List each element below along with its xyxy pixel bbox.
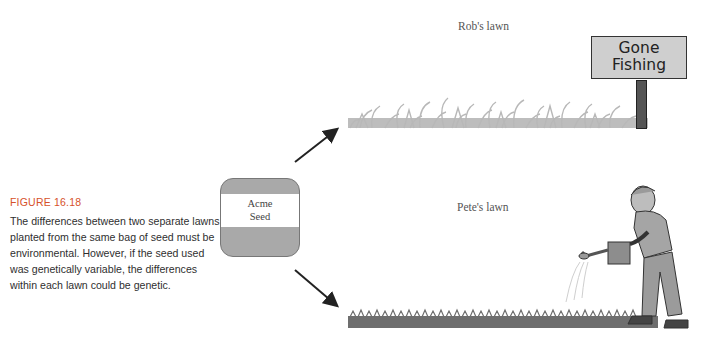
robs-lawn-grass-icon [348, 98, 648, 128]
sign-post [636, 80, 647, 129]
arrow-to-petes-lawn-icon [295, 270, 336, 305]
man-watering-icon [566, 186, 688, 328]
petes-lawn-grass-icon [348, 310, 658, 328]
arrow-to-robs-lawn-icon [295, 130, 336, 162]
sign-line2: Fishing [592, 57, 686, 74]
sign-line1: Gone [592, 40, 686, 57]
gone-fishing-sign: Gone Fishing [591, 36, 687, 79]
